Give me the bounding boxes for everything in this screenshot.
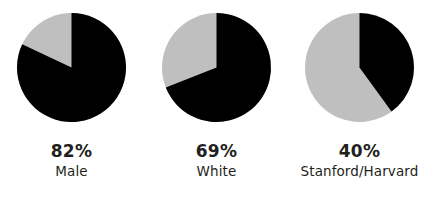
pie-chart-figure: 82% Male 69% White 40% Stanford/Harvard [0,0,429,209]
pie-label-group: 82% Male [0,140,143,181]
pie-chart-male [17,13,126,122]
pie-category-label: White [145,162,288,181]
pie-panel-male: 82% Male [0,0,143,209]
pie-label-group: 40% Stanford/Harvard [288,140,429,181]
pie-chart-white [162,13,271,122]
pie-chart-container [288,13,429,122]
pie-label-group: 69% White [145,140,288,181]
pie-panel-white: 69% White [145,0,288,209]
pie-category-label: Male [0,162,143,181]
pie-category-label: Stanford/Harvard [288,162,429,181]
pie-panel-stanford-harvard: 40% Stanford/Harvard [288,0,429,209]
pie-chart-container [145,13,288,122]
pie-chart-stanford-harvard [305,13,414,122]
pie-percent-value: 40% [288,140,429,162]
pie-percent-value: 69% [145,140,288,162]
pie-percent-value: 82% [0,140,143,162]
pie-chart-container [0,13,143,122]
